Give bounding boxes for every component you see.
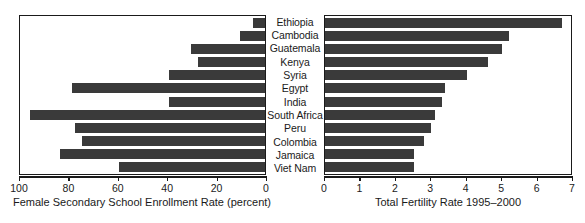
country-label: Kenya [266,57,324,67]
country-label: Ethiopia [266,17,324,27]
bar-row [325,44,571,54]
bar-syria [169,70,265,80]
bar-row [20,31,265,41]
axis-tick [118,176,119,181]
country-label: Colombia [266,137,324,147]
bar-peru [75,123,265,133]
bar-viet-nam [119,162,265,172]
axis-tick-label: 20 [211,182,223,194]
axis-tick [217,176,218,181]
bar-kenya [198,57,265,67]
bar-row [20,162,265,172]
axis-tick-label: 7 [569,182,575,194]
axis-tick-label: 1 [357,182,363,194]
bar-ethiopia [325,18,562,28]
country-label: Peru [266,123,324,133]
axis-tick-label: 4 [463,182,469,194]
axis-tick [395,176,396,181]
axis-tick-label: 5 [498,182,504,194]
bar-row [20,97,265,107]
axis-tick [167,176,168,181]
bar-row [20,57,265,67]
bar-india [169,97,265,107]
right-panel-bar-rows [325,16,571,174]
axis-tick [501,176,502,181]
bar-guatemala [191,44,265,54]
country-label: Viet Nam [266,163,324,173]
country-label: South Africa [266,110,324,120]
axis-tick-label: 6 [534,182,540,194]
bar-row [325,97,571,107]
bar-viet-nam [325,162,414,172]
bar-row [325,149,571,159]
country-label: Syria [266,70,324,80]
axis-tick-label: 100 [10,182,28,194]
bar-jamaica [325,149,414,159]
bar-row [20,83,265,93]
bar-row [20,44,265,54]
bar-south-africa [30,110,265,120]
bar-row [20,70,265,80]
left-panel-bar-rows [20,16,265,174]
right-panel-axis-title: Total Fertility Rate 1995–2000 [375,196,521,209]
bar-egypt [325,83,445,93]
bar-row [325,162,571,172]
bar-cambodia [325,31,509,41]
bar-row [325,123,571,133]
bar-row [20,110,265,120]
axis-tick-label: 60 [112,182,124,194]
bar-row [325,136,571,146]
bar-south-africa [325,110,435,120]
bar-cambodia [240,31,265,41]
bar-row [325,31,571,41]
axis-tick [324,176,325,181]
bar-row [325,57,571,67]
bar-india [325,97,442,107]
axis-tick-label: 40 [161,182,173,194]
bar-row [325,18,571,28]
bar-row [20,149,265,159]
axis-tick [68,176,69,181]
country-label: Jamaica [266,150,324,160]
country-label: Cambodia [266,30,324,40]
country-label: Egypt [266,83,324,93]
country-label: Guatemala [266,43,324,53]
bar-egypt [72,83,265,93]
left-panel-plot-area [19,15,266,175]
axis-tick [430,176,431,181]
axis-tick [359,176,360,181]
bar-row [20,18,265,28]
axis-tick-label: 0 [263,182,269,194]
bar-row [20,136,265,146]
bar-row [325,110,571,120]
axis-tick [537,176,538,181]
right-panel-plot-area [324,15,572,175]
country-label: India [266,97,324,107]
axis-tick [19,176,20,181]
axis-tick-label: 3 [427,182,433,194]
left-panel-axis-line [19,176,266,178]
bar-row [325,70,571,80]
paired-bar-chart-figure: EthiopiaCambodiaGuatemalaKenyaSyriaEgypt… [0,0,585,223]
axis-tick [466,176,467,181]
bar-jamaica [60,149,265,159]
country-label-column: EthiopiaCambodiaGuatemalaKenyaSyriaEgypt… [266,15,324,175]
bar-guatemala [325,44,502,54]
bar-row [20,123,265,133]
bar-colombia [82,136,265,146]
right-panel-axis-line [324,176,572,178]
axis-tick-label: 80 [63,182,75,194]
bar-colombia [325,136,424,146]
axis-tick [572,176,573,181]
bar-ethiopia [253,18,265,28]
bar-syria [325,70,467,80]
axis-tick [266,176,267,181]
left-panel-axis-title: Female Secondary School Enrollment Rate … [13,196,271,209]
bar-kenya [325,57,488,67]
axis-tick-label: 0 [321,182,327,194]
bar-row [325,83,571,93]
axis-tick-label: 2 [392,182,398,194]
bar-peru [325,123,431,133]
